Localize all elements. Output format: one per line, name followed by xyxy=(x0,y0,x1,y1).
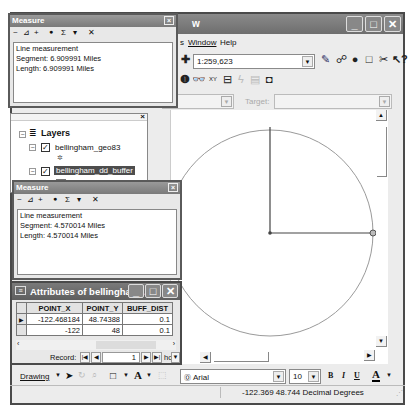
collapse-icon[interactable]: − xyxy=(19,131,26,138)
scroll-down-icon[interactable]: ▼ xyxy=(376,336,387,347)
scroll-thumb[interactable] xyxy=(96,341,156,349)
measure-title-bar[interactable]: Measure × xyxy=(14,182,180,194)
menu-window[interactable]: Window xyxy=(188,38,216,47)
measure-line-icon[interactable]: ~ xyxy=(17,195,22,204)
collapse-icon[interactable]: − xyxy=(29,168,36,175)
scroll-up-icon[interactable]: ▲ xyxy=(376,110,387,121)
edit-vertices-icon[interactable]: ⬚ xyxy=(158,370,167,380)
cell-point-x[interactable]: -122 xyxy=(27,325,83,336)
chevron-down-icon[interactable]: ▼ xyxy=(55,372,61,378)
map-scale-combo[interactable]: 1:259,623 ▼ xyxy=(193,54,315,69)
text-icon[interactable]: A xyxy=(134,369,142,381)
map-vertical-scrollbar[interactable]: ▲ ▼ ▶ xyxy=(376,110,388,364)
rotate-icon[interactable]: ↻ xyxy=(78,370,86,380)
chevron-down-icon[interactable]: ▼ xyxy=(308,371,319,382)
measure-title-bar[interactable]: Measure × xyxy=(10,15,176,27)
measure-feature-icon[interactable]: + xyxy=(34,28,39,37)
close-icon[interactable]: × xyxy=(140,112,145,121)
first-record-icon[interactable]: |◀ xyxy=(80,352,90,363)
scroll-right-icon[interactable]: › xyxy=(173,340,175,347)
layers-root-label[interactable]: Layers xyxy=(41,128,70,138)
close-button[interactable]: ✕ xyxy=(162,284,178,298)
measure-area-icon[interactable]: ⊿ xyxy=(27,195,34,204)
clear-results-icon[interactable]: ✕ xyxy=(88,28,95,37)
resize-grip-icon[interactable]: ⋰ xyxy=(396,389,403,397)
target-combo[interactable]: ▼ xyxy=(274,94,392,109)
chevron-down-icon[interactable]: ▼ xyxy=(273,371,284,382)
toc-layer-dd-buffer[interactable]: bellingham_dd_buffer xyxy=(54,166,135,175)
minimize-button[interactable]: _ xyxy=(128,284,144,298)
show-dropdown-icon[interactable]: ▼ xyxy=(171,352,180,363)
chevron-down-icon[interactable]: ▼ xyxy=(221,96,232,107)
menu-tools[interactable]: s xyxy=(180,38,184,47)
cell-point-y[interactable]: 48.74388 xyxy=(83,314,123,325)
layer-visibility-checkbox[interactable]: ✓ xyxy=(41,143,50,152)
editor-toolbar-icon[interactable]: ✎ xyxy=(318,52,332,66)
snapping-icon[interactable]: ● xyxy=(49,28,53,35)
arccatalog-icon[interactable]: ● xyxy=(348,52,362,66)
chevron-down-icon[interactable]: ▼ xyxy=(146,372,152,378)
zoom-to-elements-icon[interactable]: ⌕ xyxy=(92,370,97,381)
drawing-menu[interactable]: Drawing xyxy=(20,372,49,381)
next-record-icon[interactable]: ▶ xyxy=(141,352,151,363)
font-size-combo[interactable]: 10 ▼ xyxy=(289,369,321,384)
choose-units-icon[interactable]: ▾ xyxy=(77,195,81,204)
chevron-down-icon[interactable]: ▼ xyxy=(123,372,129,378)
show-total-icon[interactable]: Σ xyxy=(65,195,70,204)
measure-feature-icon[interactable]: + xyxy=(38,195,43,204)
vertical-scroll-thumb[interactable] xyxy=(377,127,387,177)
add-data-icon[interactable]: ✚ xyxy=(178,52,192,66)
whats-this-icon[interactable]: ↖? xyxy=(392,52,406,66)
bold-button[interactable]: B xyxy=(328,371,333,380)
rectangle-icon[interactable]: □ xyxy=(110,370,116,381)
row-selector[interactable] xyxy=(17,325,27,336)
identify-icon[interactable]: ❶ xyxy=(178,72,192,86)
previous-record-icon[interactable]: ◀ xyxy=(91,352,101,363)
column-header[interactable]: POINT_Y xyxy=(83,303,123,314)
minimize-button[interactable]: _ xyxy=(346,16,363,32)
chevron-down-icon[interactable]: ▼ xyxy=(379,96,390,107)
toc-header[interactable]: × xyxy=(11,114,147,121)
underline-button[interactable]: U xyxy=(354,371,360,380)
arctoc-icon[interactable]: ☍ xyxy=(334,52,348,66)
record-number-input[interactable]: 1 xyxy=(102,352,140,363)
clear-results-icon[interactable]: ✕ xyxy=(92,195,99,204)
maximize-button[interactable]: □ xyxy=(365,16,382,32)
select-elements-icon[interactable]: ➤ xyxy=(65,370,73,381)
current-row-indicator-icon[interactable]: ▶ xyxy=(17,314,27,325)
italic-button[interactable]: I xyxy=(342,371,345,380)
font-name-combo[interactable]: Ⓞ Arial ▼ xyxy=(180,369,286,384)
map-horizontal-scrollbar[interactable]: ◀ xyxy=(200,352,275,363)
close-icon[interactable]: × xyxy=(164,16,174,25)
hyperlink-icon[interactable]: ϟ xyxy=(234,72,248,86)
go-to-xy-icon[interactable]: XY xyxy=(206,72,220,86)
show-total-icon[interactable]: Σ xyxy=(61,28,66,37)
column-header[interactable]: BUFF_DIST xyxy=(123,303,173,314)
menu-help[interactable]: Help xyxy=(220,38,236,47)
snapping-icon[interactable]: ● xyxy=(53,195,57,202)
toc-layer-geo83[interactable]: bellingham_geo83 xyxy=(55,143,120,152)
close-button[interactable]: ✕ xyxy=(384,16,401,32)
column-header[interactable]: POINT_X xyxy=(27,303,83,314)
table-horizontal-scrollbar[interactable]: ‹ › xyxy=(16,340,176,350)
layer-visibility-checkbox[interactable]: ✓ xyxy=(41,167,50,176)
measure-line-icon[interactable]: ~ xyxy=(13,28,18,37)
cell-buff-dist[interactable]: 0.1 xyxy=(123,325,173,336)
find-icon[interactable]: 👓 xyxy=(192,72,206,86)
font-color-button[interactable]: A xyxy=(372,369,380,382)
attributes-title-bar[interactable]: ≡ Attributes of bellingham... _ □ ✕ xyxy=(12,283,180,300)
maximize-button[interactable]: □ xyxy=(145,284,161,298)
layout-icon[interactable]: □ xyxy=(362,52,376,66)
scroll-left-icon[interactable]: ◀ xyxy=(200,352,211,363)
script-icon[interactable]: ✂ xyxy=(376,52,390,66)
cell-point-y[interactable]: 48 xyxy=(83,325,123,336)
chevron-down-icon[interactable]: ▼ xyxy=(302,56,313,67)
measure-area-icon[interactable]: ⊿ xyxy=(23,28,30,37)
cell-point-x[interactable]: -122.468184 xyxy=(27,314,83,325)
collapse-icon[interactable]: − xyxy=(29,144,36,151)
html-popup-icon[interactable]: ▤ xyxy=(248,72,262,86)
choose-units-icon[interactable]: ▾ xyxy=(73,28,77,37)
table-row[interactable]: -122 48 0.1 xyxy=(17,325,173,336)
last-record-icon[interactable]: ▶| xyxy=(152,352,162,363)
scroll-right-icon[interactable]: ▶ xyxy=(364,350,375,361)
